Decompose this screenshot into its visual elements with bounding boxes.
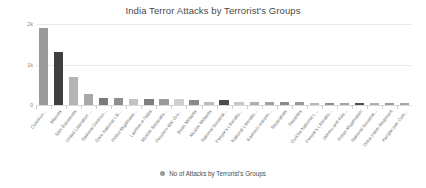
x-label-cell: Separatists [277,108,292,163]
bar-slot [66,24,81,105]
bar-slot [126,24,141,105]
bar-slot [292,24,307,105]
x-axis-labels: Commun...MaoistsSikh ExtremistsUnited Li… [36,108,412,163]
x-axis-tick-label: Commun... [30,109,48,130]
bar[interactable] [69,77,78,105]
bar-slot [171,24,186,105]
bar-slot [277,24,292,105]
x-axis-tick-label: Maoists [49,109,63,125]
bar-slot [81,24,96,105]
bar-slot [141,24,156,105]
bar-slot [232,24,247,105]
y-axis: 2k 1k 0 [0,24,33,106]
y-tick-label: 0 [30,102,33,108]
bar-slot [397,24,412,105]
bar[interactable] [39,28,48,105]
bar-slot [307,24,322,105]
chart-container: India Terror Attacks by Terrorist's Grou… [0,0,426,188]
bar-slot [51,24,66,105]
bar-slot [111,24,126,105]
bar-slot [36,24,51,105]
y-tick-label: 2k [27,21,33,27]
x-label-cell: Commun... [36,108,51,163]
bar-slot [186,24,201,105]
y-tick-label: 1k [27,62,33,68]
bar-slot [247,24,262,105]
x-label-cell: Kanglei pak Com... [397,108,412,163]
chart-title: India Terror Attacks by Terrorist's Grou… [0,5,426,16]
bar-slot [352,24,367,105]
x-label-cell: People's War Gro... [171,108,186,163]
bar-slot [96,24,111,105]
bar-slot [382,24,397,105]
bar[interactable] [114,98,123,105]
bar-slot [202,24,217,105]
bar-slot [156,24,171,105]
chart-legend: No of Attacks by Terrorist's Groups [0,170,426,177]
bar-group [36,24,412,105]
bar-slot [262,24,277,105]
bar[interactable] [84,94,93,105]
x-label-cell: Kashmiri extremi... [262,108,277,163]
bar-slot [367,24,382,105]
legend-item-label[interactable]: No of Attacks by Terrorist's Groups [169,170,266,177]
bar[interactable] [99,98,108,105]
bar-slot [217,24,232,105]
bar-slot [337,24,352,105]
plot-area [36,24,412,106]
bar[interactable] [54,52,63,105]
bar-slot [322,24,337,105]
legend-marker-icon [160,171,165,176]
